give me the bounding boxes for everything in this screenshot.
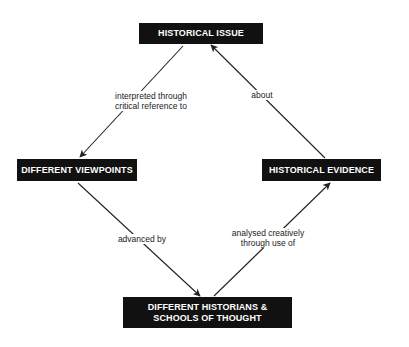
node-label: HISTORICAL ISSUE bbox=[158, 28, 244, 39]
node-different-viewpoints: DIFFERENT VIEWPOINTS bbox=[17, 159, 137, 181]
node-different-historians: DIFFERENT HISTORIANS & SCHOOLS OF THOUGH… bbox=[123, 297, 292, 328]
edge-label-historians-to-evidence: analysed creatively through use of bbox=[226, 228, 310, 248]
edge-label-line: about bbox=[251, 90, 272, 100]
node-label: HISTORICAL EVIDENCE bbox=[269, 165, 374, 176]
node-historical-issue: HISTORICAL ISSUE bbox=[139, 23, 263, 44]
node-label: DIFFERENT VIEWPOINTS bbox=[21, 165, 133, 176]
edge-label-line: interpreted through bbox=[115, 91, 187, 101]
node-historical-evidence: HISTORICAL EVIDENCE bbox=[262, 159, 381, 181]
concept-diagram: interpreted through critical reference t… bbox=[0, 0, 409, 347]
edge-label-viewpoints-to-historians: advanced by bbox=[113, 234, 171, 244]
edge-label-line: analysed creatively bbox=[232, 228, 304, 238]
edge-label-evidence-to-issue: about bbox=[247, 90, 277, 100]
edge-label-issue-to-viewpoints: interpreted through critical reference t… bbox=[103, 91, 199, 111]
node-label-line2: SCHOOLS OF THOUGHT bbox=[153, 313, 261, 324]
edge-label-line: critical reference to bbox=[115, 101, 187, 111]
node-label-line1: DIFFERENT HISTORIANS & bbox=[148, 302, 268, 313]
edge-label-line: advanced by bbox=[118, 234, 166, 244]
edge-evidence-to-issue bbox=[211, 45, 325, 158]
edge-label-line: through use of bbox=[241, 238, 295, 248]
